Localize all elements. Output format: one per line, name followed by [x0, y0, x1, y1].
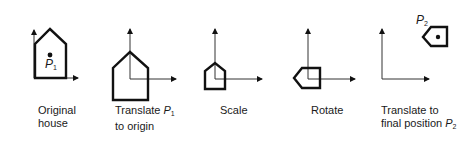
point-p2-dot	[436, 35, 440, 39]
caption-translate-final: Translate to final position P2	[381, 104, 456, 133]
panel-scale	[205, 29, 262, 89]
caption-scale: Scale	[220, 104, 248, 117]
caption-rotate: Rotate	[311, 104, 343, 117]
panel-translate-final	[382, 27, 447, 79]
panel-translate-origin	[113, 29, 176, 100]
house-shape	[294, 68, 320, 88]
caption-original: Original house	[38, 104, 76, 130]
point-p1-label: P1	[45, 58, 57, 74]
point-p2-label: P2	[416, 14, 428, 30]
caption-translate-origin: Translate P1 to origin	[115, 104, 175, 133]
panel-rotate	[294, 29, 355, 88]
